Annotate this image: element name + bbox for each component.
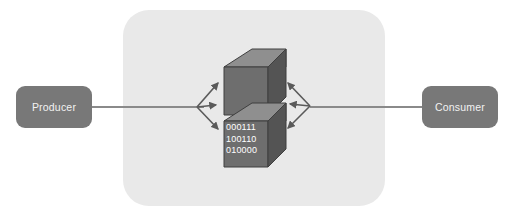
binary-line-2: 100110 (226, 134, 282, 146)
binary-line-1: 000111 (226, 122, 282, 134)
diagram-canvas: Producer Consumer (0, 0, 513, 217)
producer-connector-line (92, 106, 204, 108)
producer-node[interactable]: Producer (16, 86, 92, 128)
binary-payload: 000111 100110 010000 (226, 122, 282, 157)
consumer-label: Consumer (435, 101, 485, 113)
producer-label: Producer (32, 101, 76, 113)
consumer-node[interactable]: Consumer (422, 86, 498, 128)
binary-line-3: 010000 (226, 145, 282, 157)
